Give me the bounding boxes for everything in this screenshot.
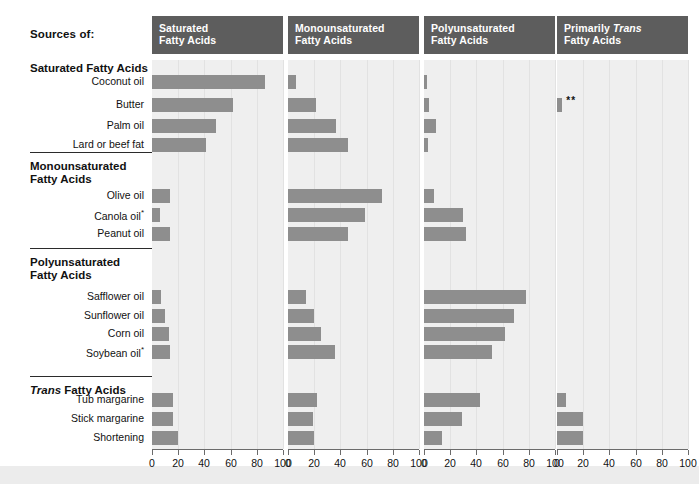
bar [424, 138, 428, 152]
group-heading-saturated-fatty-acids: Saturated Fatty Acids [30, 62, 148, 75]
gridline [257, 60, 258, 449]
x-axis-monounsaturated [288, 449, 419, 450]
x-tick-label: 0 [276, 457, 300, 469]
bar [288, 345, 335, 359]
group-separator [30, 248, 152, 249]
group-separator [30, 152, 152, 153]
bar [152, 431, 178, 445]
x-tick [503, 450, 504, 455]
bar [424, 290, 526, 304]
gridline [555, 60, 556, 449]
row-label: Shortening [93, 431, 144, 443]
gridline [636, 60, 637, 449]
bar [557, 393, 566, 407]
x-tick-label: 60 [219, 457, 243, 469]
gridline [662, 60, 663, 449]
gridline [419, 60, 420, 449]
gridline [367, 60, 368, 449]
bar [288, 393, 317, 407]
panel-title-line1: Monounsaturated [295, 22, 385, 34]
x-tick-label: 40 [597, 457, 621, 469]
bar [152, 309, 165, 323]
x-tick [257, 450, 258, 455]
bar [424, 309, 514, 323]
x-tick-label: 40 [328, 457, 352, 469]
bar [424, 208, 463, 222]
x-tick-label: 80 [245, 457, 269, 469]
x-tick [393, 450, 394, 455]
bar [288, 119, 336, 133]
x-tick-label: 80 [650, 457, 674, 469]
row-label: Sunflower oil [84, 309, 144, 321]
group-heading-monounsaturated-fatty-acids: MonounsaturatedFatty Acids [30, 160, 126, 185]
bar [424, 345, 492, 359]
gridline [503, 60, 504, 449]
gridline [476, 60, 477, 449]
x-tick [555, 450, 556, 455]
row-label: Canola oil* [94, 208, 144, 222]
x-axis-saturated [152, 449, 283, 450]
bar [152, 75, 265, 89]
gridline [450, 60, 451, 449]
x-tick [340, 450, 341, 455]
x-tick [424, 450, 425, 455]
row-label: Palm oil [107, 119, 144, 131]
bar [152, 393, 173, 407]
panel-title-line2: Fatty Acids [295, 34, 352, 46]
x-tick [152, 450, 153, 455]
x-tick-label: 0 [545, 457, 569, 469]
bar [288, 309, 314, 323]
panel-title-line2: Fatty Acids [564, 34, 621, 46]
x-tick-label: 40 [192, 457, 216, 469]
row-label: Soybean oil* [86, 345, 144, 359]
bar [288, 412, 313, 426]
bar [288, 327, 321, 341]
bar [152, 119, 216, 133]
bar [424, 412, 462, 426]
x-tick [450, 450, 451, 455]
bar [424, 189, 434, 203]
bar [288, 227, 348, 241]
x-tick-label: 100 [676, 457, 699, 469]
gridline [393, 60, 394, 449]
row-label: Coconut oil [91, 75, 144, 87]
row-label: Olive oil [107, 189, 144, 201]
bar [557, 412, 583, 426]
bar [424, 119, 436, 133]
panel-title-line1: Saturated [159, 22, 208, 34]
gridline [529, 60, 530, 449]
footnote-marker: * [141, 208, 144, 217]
bar [152, 345, 170, 359]
panel-header-primarily-trans: Primarily TransFatty Acids [557, 16, 688, 54]
x-tick-label: 80 [517, 457, 541, 469]
gridline [688, 60, 689, 449]
panel-body-primarily-trans [557, 60, 688, 449]
bar [424, 327, 505, 341]
x-axis-polyunsaturated [424, 449, 555, 450]
row-label: Tub margarine [76, 393, 144, 405]
x-tick-label: 20 [571, 457, 595, 469]
gridline [340, 60, 341, 449]
bar [152, 189, 170, 203]
gridline [283, 60, 284, 449]
row-label: Lard or beef fat [73, 138, 144, 150]
bar [557, 431, 583, 445]
bar [424, 393, 480, 407]
x-tick-label: 40 [464, 457, 488, 469]
x-tick-label: 60 [624, 457, 648, 469]
gridline [609, 60, 610, 449]
panel-title-line1: Primarily Trans [564, 22, 642, 34]
panel-body-polyunsaturated [424, 60, 555, 449]
x-tick [609, 450, 610, 455]
gridline [231, 60, 232, 449]
sources-of-title: Sources of: [30, 28, 94, 40]
x-tick [288, 450, 289, 455]
x-tick [688, 450, 689, 455]
x-tick [662, 450, 663, 455]
x-tick-label: 80 [381, 457, 405, 469]
x-tick-label: 60 [491, 457, 515, 469]
x-tick [283, 450, 284, 455]
x-axis-primarily-trans [557, 449, 688, 450]
bar [424, 227, 466, 241]
panel-header-saturated: SaturatedFatty Acids [152, 16, 283, 54]
